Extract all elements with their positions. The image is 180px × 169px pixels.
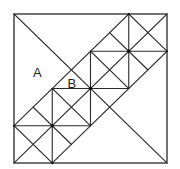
label-b: B [67, 76, 76, 91]
vertex-dot [51, 162, 53, 164]
vertex-dot [89, 87, 92, 90]
label-a: A [33, 65, 42, 80]
vertex-dot [128, 13, 130, 15]
vertex-dot [51, 124, 54, 127]
geometry-diagram: A B [0, 0, 180, 169]
vertex-dot [13, 125, 15, 127]
vertex-dot [127, 50, 130, 53]
vertex-dot [166, 50, 168, 52]
